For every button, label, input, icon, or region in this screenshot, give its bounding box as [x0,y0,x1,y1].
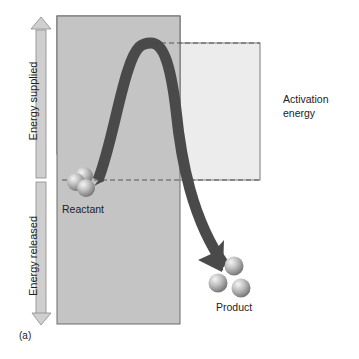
energy-diagram [0,0,359,359]
reactant-label: Reactant [62,203,104,215]
activation-energy-label: Activation energy [283,92,329,120]
panel-label: (a) [19,330,31,341]
energy-supplied-label: Energy supplied [27,51,39,151]
energy-released-label: Energy released [27,206,39,306]
product-label: Product [216,301,252,313]
